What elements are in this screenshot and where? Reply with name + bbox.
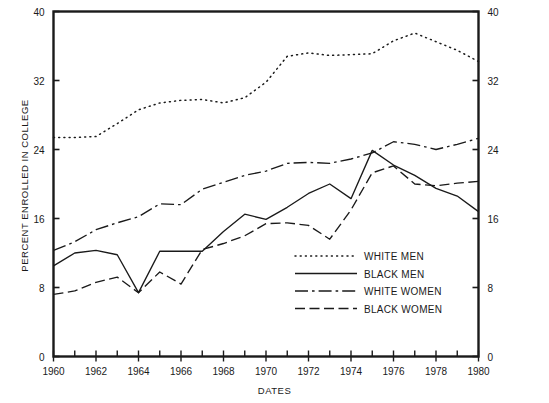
series-line-white-women	[54, 138, 479, 250]
chart-figure: PERCENT ENROLLED IN COLLEGE DATES 008816…	[0, 0, 549, 403]
x-tick-label: 1980	[467, 366, 490, 377]
y-tick-label-left: 16	[33, 214, 45, 225]
x-tick-label: 1966	[170, 366, 193, 377]
legend-label-white-men: WHITE MEN	[364, 251, 424, 262]
y-tick-label-right: 0	[488, 352, 494, 363]
legend-label-black-women: BLACK WOMEN	[364, 304, 442, 315]
y-tick-label-right: 32	[488, 76, 500, 87]
x-tick-label: 1960	[42, 366, 65, 377]
y-tick-label-left: 24	[33, 145, 45, 156]
y-tick-label-left: 32	[33, 76, 45, 87]
y-tick-label-left: 40	[33, 7, 45, 18]
x-tick-label: 1974	[340, 366, 363, 377]
y-tick-label-left: 0	[39, 352, 45, 363]
legend-label-white-women: WHITE WOMEN	[364, 286, 442, 297]
y-tick-label-left: 8	[39, 283, 45, 294]
x-tick-label: 1976	[382, 366, 405, 377]
x-tick-label: 1968	[212, 366, 235, 377]
x-tick-label: 1962	[85, 366, 108, 377]
x-tick-label: 1972	[297, 366, 320, 377]
x-tick-label: 1978	[425, 366, 448, 377]
y-tick-label-right: 8	[488, 283, 494, 294]
plot-area: 0088161624243232404019601962196419661968…	[0, 0, 549, 403]
legend-label-black-men: BLACK MEN	[364, 269, 425, 280]
x-tick-label: 1970	[255, 366, 278, 377]
x-axis-label: DATES	[0, 385, 549, 396]
y-axis-label: PERCENT ENROLLED IN COLLEGE	[19, 86, 30, 286]
y-tick-label-right: 16	[488, 214, 500, 225]
x-tick-label: 1964	[127, 366, 150, 377]
y-tick-label-right: 24	[488, 145, 500, 156]
series-line-white-men	[54, 33, 479, 137]
y-tick-label-right: 40	[488, 7, 500, 18]
